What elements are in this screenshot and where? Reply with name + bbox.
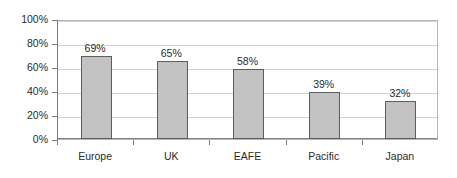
x-axis-label-japan: Japan [360, 150, 440, 162]
plot-area [57, 20, 438, 140]
y-axis-tick [52, 92, 57, 93]
x-axis-tick [57, 140, 58, 145]
y-axis-tick-label: 20% [0, 110, 48, 121]
gridline [58, 21, 437, 22]
bar-uk [157, 61, 188, 139]
y-axis-tick-label: 80% [0, 38, 48, 49]
y-axis-tick-label: 100% [0, 14, 48, 25]
y-axis-tick [52, 68, 57, 69]
bar-value-label: 39% [294, 79, 354, 90]
bar-value-label: 69% [65, 43, 125, 54]
x-axis-label-eafe: EAFE [208, 150, 288, 162]
y-axis-tick-label: 40% [0, 86, 48, 97]
x-axis-tick [133, 140, 134, 145]
y-axis-line [57, 20, 58, 140]
x-axis-tick [362, 140, 363, 145]
y-axis-tick-label: 0% [0, 134, 48, 145]
x-axis-tick [209, 140, 210, 145]
y-axis-tick-label: 60% [0, 62, 48, 73]
bar-value-label: 32% [370, 88, 430, 99]
bar-japan [385, 101, 416, 139]
bar-europe [81, 56, 112, 139]
bar-eafe [233, 69, 264, 139]
x-axis-label-pacific: Pacific [284, 150, 364, 162]
x-axis-label-europe: Europe [55, 150, 135, 162]
x-axis-tick [286, 140, 287, 145]
bar-pacific [309, 92, 340, 139]
bar-value-label: 58% [218, 56, 278, 67]
y-axis-tick [52, 44, 57, 45]
x-axis-label-uk: UK [131, 150, 211, 162]
y-axis-tick [52, 116, 57, 117]
y-axis-tick [52, 20, 57, 21]
bar-value-label: 65% [141, 48, 201, 59]
bar-chart: 0%20%40%60%80%100% EuropeUKEAFEPacificJa… [0, 0, 457, 178]
